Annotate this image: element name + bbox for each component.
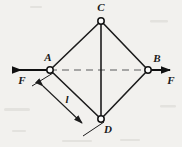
- joint-C: [98, 18, 104, 24]
- member-D-A: [50, 70, 101, 119]
- dimension-label-l: l: [65, 93, 69, 105]
- rhombus-linkage-diagram: C A B D F F l: [0, 0, 182, 147]
- node-label-D: D: [103, 123, 112, 135]
- member-B-D: [101, 70, 148, 119]
- node-label-B: B: [152, 52, 160, 64]
- joint-A: [47, 67, 53, 73]
- joint-D: [98, 116, 104, 122]
- figure-canvas: C A B D F F l: [0, 0, 182, 147]
- member-A-C: [50, 21, 101, 70]
- extension-line-at-D: [83, 122, 104, 136]
- extension-line-at-A: [32, 73, 53, 86]
- dimension-line-A-D: [43, 86, 82, 123]
- node-label-A: A: [43, 51, 51, 63]
- force-label-right: F: [166, 74, 175, 86]
- paper-texture: [4, 6, 176, 142]
- joint-B: [145, 67, 151, 73]
- node-label-C: C: [97, 1, 105, 13]
- force-label-left: F: [17, 74, 26, 86]
- member-C-B: [101, 21, 148, 70]
